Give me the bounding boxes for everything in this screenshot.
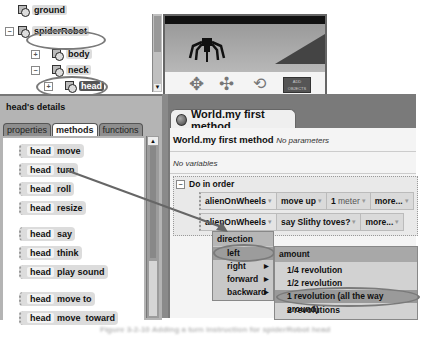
object-name: alienOnWheels: [205, 217, 266, 227]
tab-methods[interactable]: methods: [52, 123, 98, 136]
more-button[interactable]: more...▾: [361, 214, 403, 230]
tile-object: head: [27, 165, 54, 175]
scene-view[interactable]: ✥ ✣ ⟲ ADD OBJECTS: [163, 14, 327, 98]
tab-properties[interactable]: properties: [3, 123, 51, 136]
menu-item-forward[interactable]: forward▶: [213, 273, 273, 286]
method-tile-resize[interactable]: headresize: [19, 201, 86, 215]
tile-method: play sound: [57, 267, 105, 277]
divider: [170, 151, 416, 152]
tree-scrollbar[interactable]: ▼: [152, 14, 162, 92]
tile-object: head: [27, 184, 54, 194]
method-name: say: [281, 217, 295, 227]
object-icon: [52, 49, 63, 60]
direction-menu: direction left right▶ forward▶ backward▶: [212, 231, 274, 301]
tree-item-label: ground: [32, 5, 67, 15]
tree-item-ground[interactable]: ground: [18, 3, 67, 17]
tile-method: move toward: [57, 313, 115, 323]
scroll-thumb[interactable]: [150, 146, 156, 258]
rotate-control-icon[interactable]: ⟲: [253, 75, 266, 93]
details-title: head's details: [6, 102, 65, 112]
scene-sky: [165, 16, 325, 24]
tree-item-label: neck: [66, 65, 91, 75]
menu-item-backward[interactable]: backward▶: [213, 286, 273, 299]
tab-functions[interactable]: functions: [99, 123, 143, 136]
tree-item-neck[interactable]: − neck: [31, 63, 91, 77]
do-in-order-block[interactable]: − Do in order alienOnWheels▾ move up▾ 1 …: [173, 176, 418, 236]
highlight-ellipse: [213, 244, 275, 262]
move-control-icon[interactable]: ✥: [189, 75, 204, 93]
object-icon: [52, 65, 63, 76]
statement-object[interactable]: alienOnWheels▾: [201, 214, 277, 230]
method-ball-icon: [176, 114, 187, 126]
editor-tab[interactable]: World.my first method: [170, 109, 296, 130]
method-tile-turn[interactable]: headturn: [19, 163, 78, 177]
menu-item-quarter-revolution[interactable]: 1/4 revolution: [275, 264, 417, 277]
statement-object[interactable]: alienOnWheels▾: [201, 193, 277, 209]
amount-menu-header: amount: [275, 247, 417, 262]
amount-menu: amount 1/4 revolution 1/2 revolution 1 r…: [274, 246, 418, 320]
statement-say[interactable]: alienOnWheels▾ say Slithy toves?▾ more..…: [199, 213, 404, 231]
do-in-order-header: − Do in order: [176, 179, 234, 189]
method-tile-think[interactable]: headthink: [19, 246, 82, 260]
tile-object: head: [27, 146, 54, 156]
method-name: move: [281, 196, 303, 206]
tile-method: move to: [57, 294, 92, 304]
dropdown-icon[interactable]: ▾: [318, 197, 322, 205]
method-tile-play-sound[interactable]: headplay sound: [19, 265, 108, 279]
details-tabs: properties methods functions: [3, 123, 144, 136]
more-label: more...: [365, 217, 393, 227]
statement-method: move up▾: [277, 193, 327, 209]
collapse-icon[interactable]: −: [5, 27, 14, 36]
dropdown-icon[interactable]: ▾: [352, 218, 356, 226]
object-tree: ground − spiderRobot + body − neck + hea…: [0, 0, 160, 92]
tile-method: roll: [57, 184, 71, 194]
dropdown-icon[interactable]: ▾: [268, 218, 272, 226]
tile-method: resize: [57, 203, 83, 213]
expand-icon[interactable]: +: [31, 50, 40, 59]
more-label: more...: [375, 196, 403, 206]
direction-arg[interactable]: up: [306, 196, 316, 206]
collapse-icon[interactable]: −: [31, 66, 40, 75]
statement-move[interactable]: alienOnWheels▾ move up▾ 1 meter▾ more...…: [199, 192, 414, 210]
highlight-ellipse: [26, 30, 106, 50]
amount-unit: meter: [338, 196, 360, 206]
scroll-up-icon[interactable]: ▲: [148, 137, 158, 145]
amount-arg[interactable]: 1 meter▾: [327, 193, 371, 209]
object-name: alienOnWheels: [205, 196, 266, 206]
object-icon: [18, 26, 29, 37]
method-tile-roll[interactable]: headroll: [19, 182, 74, 196]
method-tile-move[interactable]: headmove: [19, 144, 84, 158]
menu-item-label: 1/4 revolution: [287, 265, 342, 275]
dropdown-icon[interactable]: ▾: [395, 218, 399, 226]
method-tile-say[interactable]: headsay: [19, 227, 75, 241]
tile-object: head: [27, 267, 54, 277]
scroll-track[interactable]: [149, 261, 157, 316]
tilt-control-icon[interactable]: ✣: [219, 75, 234, 93]
dropdown-icon[interactable]: ▾: [362, 197, 366, 205]
details-scrollbar[interactable]: ▲: [146, 136, 159, 318]
scroll-thumb[interactable]: [154, 16, 161, 52]
method-tile-move-to[interactable]: headmove to: [19, 292, 95, 306]
more-button[interactable]: more...▾: [371, 193, 413, 209]
spider-robot-image: [187, 36, 227, 62]
method-parameters: No parameters: [276, 136, 329, 145]
scroll-down-icon[interactable]: ▼: [154, 84, 161, 91]
scene-ground: [165, 24, 325, 72]
tile-object: head: [27, 313, 54, 323]
do-in-order-label: Do in order: [189, 179, 234, 189]
divider: [170, 173, 416, 174]
say-text-arg[interactable]: Slithy toves?: [298, 217, 351, 227]
methods-list: headmove headturn headroll headresize he…: [3, 138, 144, 320]
add-objects-button[interactable]: ADD OBJECTS: [283, 77, 311, 93]
scene-rock: [275, 34, 325, 64]
menu-item-label: forward: [227, 274, 258, 284]
highlight-ellipse: [276, 287, 420, 307]
dropdown-icon[interactable]: ▾: [268, 197, 272, 205]
tile-object: head: [27, 229, 54, 239]
menu-item-label: right: [227, 261, 246, 271]
dropdown-icon[interactable]: ▾: [405, 197, 409, 205]
method-tile-move-toward[interactable]: headmove toward: [19, 311, 118, 325]
tile-method: say: [57, 229, 72, 239]
method-signature: World.my first method No parameters: [173, 134, 329, 145]
collapse-icon[interactable]: −: [176, 180, 185, 189]
